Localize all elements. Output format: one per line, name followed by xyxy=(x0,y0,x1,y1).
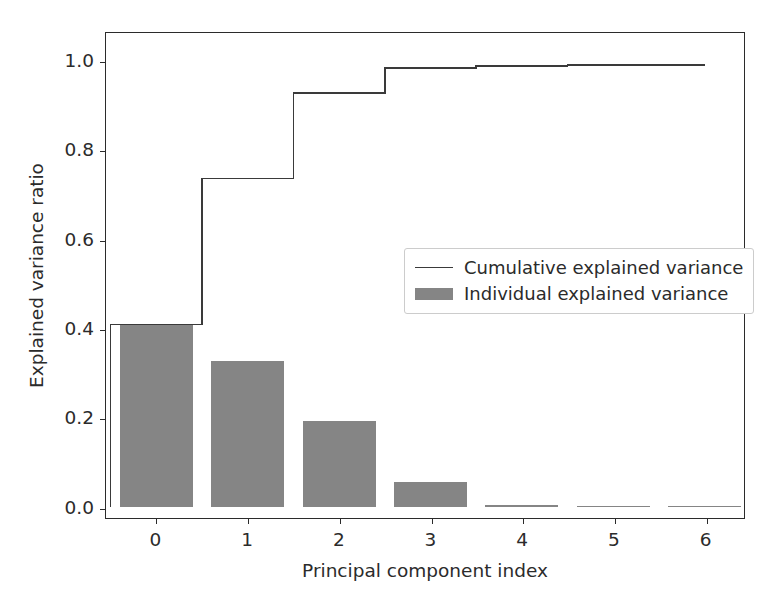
x-tick-mark xyxy=(248,518,249,524)
x-tick-mark xyxy=(615,518,616,524)
bar-6 xyxy=(668,506,741,507)
y-axis-label: Explained variance ratio xyxy=(24,32,50,519)
x-tick-label: 0 xyxy=(150,531,162,550)
x-tick-mark xyxy=(707,518,708,524)
bar-series-individual-explained-variance xyxy=(120,324,742,507)
x-tick-mark xyxy=(156,518,157,524)
bar-3 xyxy=(394,482,467,507)
x-tick-mark xyxy=(340,518,341,524)
x-tick-label: 5 xyxy=(608,531,620,550)
y-tick-mark xyxy=(100,241,106,242)
x-tick-mark xyxy=(523,518,524,524)
y-tick-mark xyxy=(100,419,106,420)
x-tick-label: 6 xyxy=(700,531,712,550)
x-tick-label: 1 xyxy=(241,531,253,550)
legend-item-label: Individual explained variance xyxy=(464,285,728,303)
figure-canvas: 0.00.20.40.60.81.0 Explained variance ra… xyxy=(0,0,783,598)
bar-0 xyxy=(120,324,193,506)
legend-item-individual[interactable]: Individual explained variance xyxy=(413,281,743,307)
legend-item-cumulative[interactable]: Cumulative explained variance xyxy=(413,255,743,281)
legend-item-label: Cumulative explained variance xyxy=(464,259,743,277)
y-tick-mark xyxy=(100,330,106,331)
legend-patch-swatch-icon xyxy=(413,284,455,304)
bar-5 xyxy=(577,506,650,507)
x-tick-label: 2 xyxy=(333,531,345,550)
chart-legend[interactable]: Cumulative explained variance Individual… xyxy=(404,248,754,314)
bar-1 xyxy=(211,361,284,507)
y-tick-mark xyxy=(100,62,106,63)
x-tick-mark xyxy=(432,518,433,524)
y-tick-mark xyxy=(100,151,106,152)
bar-4 xyxy=(485,505,558,507)
x-axis-label: Principal component index xyxy=(105,560,745,582)
x-tick-label: 3 xyxy=(425,531,437,550)
x-tick-label: 4 xyxy=(516,531,528,550)
y-tick-mark xyxy=(100,509,106,510)
legend-line-swatch-icon xyxy=(413,258,455,278)
bar-2 xyxy=(303,421,376,506)
